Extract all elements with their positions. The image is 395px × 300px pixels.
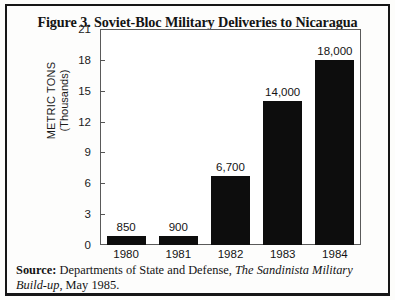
y-axis-title-line-1: METRIC TONS (45, 41, 58, 161)
y-axis-tick-mark (100, 214, 105, 215)
y-axis-tick-label: 6 (51, 177, 91, 189)
x-axis-category-label: 1980 (113, 248, 139, 260)
bottom-rule (7, 293, 388, 295)
bar (159, 236, 198, 245)
bar (107, 236, 146, 245)
x-axis-category-label: 1982 (218, 248, 244, 260)
y-axis-title: METRIC TONS (Thousands) (45, 41, 70, 161)
bar-value-label: 18,000 (317, 45, 352, 57)
bar (211, 176, 250, 245)
y-axis-tick-label: 21 (51, 23, 91, 35)
source-date: , May 1985. (59, 278, 119, 292)
source-agencies: Departments of State and Defense, (56, 263, 235, 277)
bar-value-label: 14,000 (265, 86, 300, 98)
y-axis-tick-mark (100, 60, 105, 61)
x-axis-category-label: 1981 (166, 248, 192, 260)
figure-container: Figure 3. Soviet-Bloc Military Deliverie… (0, 0, 395, 300)
bar (315, 60, 354, 245)
bar-value-label: 6,700 (216, 161, 245, 173)
source-label: Source: (16, 263, 56, 277)
y-axis-tick-label: 3 (51, 208, 91, 220)
bar-value-label: 850 (117, 221, 136, 233)
x-axis-category-label: 1983 (270, 248, 296, 260)
bar-value-label: 900 (169, 221, 188, 233)
bar (263, 101, 302, 245)
y-axis-tick-mark (100, 152, 105, 153)
y-axis-tick-label: 0 (51, 239, 91, 251)
y-axis-tick-mark (100, 183, 105, 184)
y-axis-title-line-2: (Thousands) (57, 41, 70, 161)
y-axis-tick-mark (100, 122, 105, 123)
source-note: Source: Departments of State and Defense… (16, 263, 376, 293)
y-axis-tick-mark (100, 91, 105, 92)
chart-axes-layer: 036912151821 8509006,70014,00018,000 (100, 29, 361, 245)
x-axis-category-label: 1984 (322, 248, 348, 260)
